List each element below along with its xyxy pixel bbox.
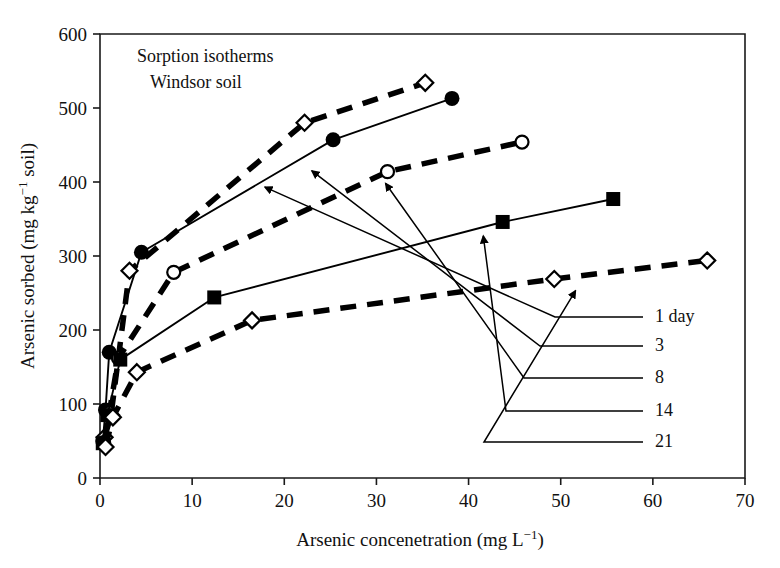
data-marker-filled-square [113, 353, 127, 367]
chart-figure: 010203040506070 0100200300400500600 1 da… [0, 0, 780, 568]
x-tick-label: 30 [367, 490, 386, 511]
y-tick-label: 400 [59, 172, 88, 193]
x-tick-label: 40 [459, 490, 478, 511]
x-tick-label: 10 [183, 490, 202, 511]
legend-label-1-day: 1 day [655, 306, 695, 326]
y-axis-title-tail: soil) [17, 143, 39, 182]
annotation-line-1: Sorption isotherms [137, 46, 274, 66]
legend-label-14: 14 [655, 400, 673, 420]
x-tick-label: 70 [736, 490, 755, 511]
data-marker-filled-circle [444, 91, 459, 106]
y-tick-label: 200 [59, 320, 88, 341]
data-marker-filled-square [207, 290, 221, 304]
data-marker-open-circle [167, 266, 180, 279]
data-marker-filled-square [606, 192, 620, 206]
y-axis-title-superscript: −1 [15, 182, 30, 196]
x-tick-label: 20 [275, 490, 294, 511]
x-tick-label: 0 [95, 490, 105, 511]
x-axis-title-tail: ) [537, 529, 543, 551]
data-marker-open-circle [381, 165, 394, 178]
y-tick-label: 100 [59, 394, 88, 415]
y-tick-label: 500 [59, 98, 88, 119]
x-axis-title-main: Arsenic concenetration (mg L [296, 529, 523, 551]
data-marker-open-circle [516, 136, 529, 149]
y-tick-label: 0 [78, 468, 88, 489]
x-axis-title-superscript: −1 [524, 527, 538, 542]
legend-label-3: 3 [655, 335, 664, 355]
x-tick-label: 50 [551, 490, 570, 511]
legend-label-8: 8 [655, 367, 664, 387]
chart-background [0, 0, 780, 568]
y-tick-label: 300 [59, 246, 88, 267]
y-tick-label: 600 [59, 24, 88, 45]
x-tick-label: 60 [643, 490, 662, 511]
data-marker-filled-circle [326, 132, 341, 147]
sorption-isotherm-chart: 010203040506070 0100200300400500600 1 da… [0, 0, 780, 568]
data-marker-filled-square [496, 215, 510, 229]
annotation-line-2: Windsor soil [150, 72, 242, 92]
y-axis-title: Arsenic sorbed (mg kg−1 soil) [15, 143, 39, 369]
y-axis-title-main: Arsenic sorbed (mg kg [17, 195, 39, 369]
x-axis-title: Arsenic concenetration (mg L−1) [296, 527, 544, 551]
legend-label-21: 21 [655, 431, 673, 451]
